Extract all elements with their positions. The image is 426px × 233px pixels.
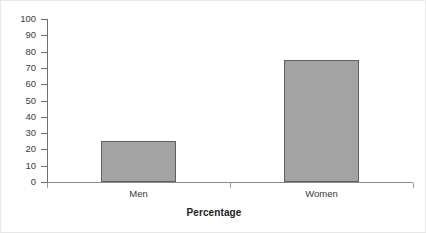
y-axis-tick — [41, 133, 47, 134]
x-axis-tick — [413, 183, 414, 188]
bar-men — [101, 141, 175, 182]
y-axis-tick-label: 50 — [25, 96, 36, 106]
y-axis-tick — [41, 149, 47, 150]
y-axis-tick — [41, 84, 47, 85]
x-axis-category-label: Women — [230, 189, 413, 199]
y-axis-tick — [41, 101, 47, 102]
y-axis-tick-label: 10 — [25, 161, 36, 171]
y-axis-line — [47, 19, 48, 183]
y-axis-tick-label: 40 — [25, 112, 36, 122]
y-axis-tick-label: 0 — [31, 177, 36, 187]
y-axis-tick — [41, 35, 47, 36]
x-axis-tick — [47, 183, 48, 188]
y-axis-tick — [41, 19, 47, 20]
x-axis-tick — [230, 183, 231, 188]
y-axis-tick — [41, 166, 47, 167]
y-axis-tick-label: 20 — [25, 144, 36, 154]
y-axis-tick-label: 100 — [20, 14, 36, 24]
y-axis-tick-label: 60 — [25, 79, 36, 89]
y-axis-tick — [41, 52, 47, 53]
bar-chart-figure: 1009080706050403020100 MenWomen Percenta… — [0, 0, 426, 233]
y-axis-tick-label: 70 — [25, 63, 36, 73]
y-axis-tick — [41, 68, 47, 69]
y-axis-tick-label: 30 — [25, 128, 36, 138]
y-axis-tick-label: 90 — [25, 30, 36, 40]
y-axis-tick-label: 80 — [25, 47, 36, 57]
bar-women — [284, 60, 358, 182]
x-axis-category-label: Men — [47, 189, 230, 199]
x-axis-title: Percentage — [1, 207, 426, 218]
y-axis-tick — [41, 117, 47, 118]
